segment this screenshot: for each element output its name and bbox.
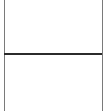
right-border [102, 0, 103, 111]
top-pane [5, 0, 102, 53]
bottom-pane [5, 55, 102, 111]
